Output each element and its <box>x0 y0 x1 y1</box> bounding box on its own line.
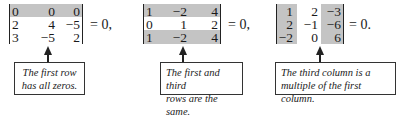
note-2-line-2: rows are the same. <box>166 92 237 118</box>
cell-3-2: −2 <box>167 31 187 44</box>
cell-3-3: 6 <box>321 31 341 44</box>
cell-3-3: 2 <box>59 31 80 44</box>
arrow-shaft-2 <box>182 54 184 62</box>
determinant-3: 1 2 −3 2 −1 −6 −2 0 6 <box>276 4 346 44</box>
note-box-3: The third column is a multiple of the fi… <box>275 62 396 95</box>
note-box-1: The first row has all zeros. <box>14 62 85 95</box>
note-2-line-1: The first and third <box>166 66 237 92</box>
note-1-line-1: The first row <box>20 66 79 79</box>
determinant-1: 0 0 0 2 4 −5 3 −5 2 <box>9 4 85 44</box>
equation-3: = 0. <box>349 17 371 33</box>
right-bar <box>220 4 221 44</box>
cell-3-1: 3 <box>12 31 19 44</box>
right-bar <box>343 4 344 44</box>
cell-3-3: 4 <box>199 31 218 44</box>
note-3-line-2: multiple of the first column. <box>281 79 390 105</box>
cell-3-2: 0 <box>300 31 318 44</box>
arrow-shaft-3 <box>319 54 321 62</box>
cell-3-2: −5 <box>37 31 55 44</box>
arrow-shaft-1 <box>47 54 49 62</box>
left-bar <box>143 4 144 44</box>
cell-3-1: 1 <box>146 31 153 44</box>
right-bar <box>82 4 83 44</box>
determinant-2: 1 −2 4 0 1 2 1 −2 4 <box>143 4 223 44</box>
note-3-line-1: The third column is a <box>281 66 390 79</box>
cell-3-1: −2 <box>276 31 293 44</box>
note-1-line-2: has all zeros. <box>20 79 79 92</box>
note-box-2: The first and third rows are the same. <box>160 62 243 95</box>
left-bar <box>9 4 10 44</box>
equation-1: = 0, <box>90 17 112 33</box>
equation-2: = 0, <box>228 17 250 33</box>
